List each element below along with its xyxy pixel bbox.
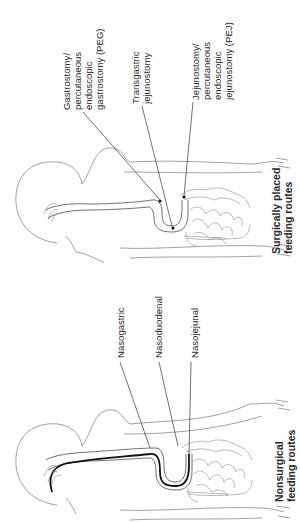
surgical-leader-lines	[83, 102, 193, 226]
caption-surgical: Surgically placed feeding routes	[270, 168, 294, 254]
label-nasojejunal: Nasojejunal	[189, 308, 200, 358]
svg-text:jejunostomy: jejunostomy	[141, 53, 152, 105]
svg-text:Gastrostomy/: Gastrostomy/	[61, 53, 72, 110]
nonsurgical-intestines	[182, 440, 252, 502]
caption-nonsurgical: Nonsurgical feeding routes	[273, 429, 297, 502]
label-peg: Gastrostomy/ percutaneous endoscopic gas…	[61, 28, 105, 110]
svg-text:gastrostomy (PEG): gastrostomy (PEG)	[94, 28, 105, 110]
surgical-intestines	[180, 188, 250, 246]
label-pej: Jejunostomy/ percutaneous endoscopic jej…	[190, 22, 234, 101]
svg-text:endoscopic: endoscopic	[212, 51, 223, 100]
pej-site-dot	[182, 195, 185, 198]
svg-text:Jejunostomy/: Jejunostomy/	[190, 43, 201, 100]
nonsurgical-panel: Nasogastric Nasoduodenal Nasojejunal Non…	[16, 296, 297, 520]
label-nasoduodenal: Nasoduodenal	[153, 296, 164, 358]
svg-text:jejunostomy (PEJ): jejunostomy (PEJ)	[223, 22, 234, 101]
svg-text:percutaneous: percutaneous	[72, 52, 83, 110]
nonsurgical-leader-lines	[120, 362, 191, 454]
label-transgastric: Transgastric jejunostomy	[130, 51, 152, 105]
feeding-routes-diagram: Gastrostomy/ percutaneous endoscopic gas…	[0, 0, 300, 522]
svg-text:Surgically placed: Surgically placed	[270, 168, 282, 254]
svg-text:feeding routes: feeding routes	[282, 181, 294, 254]
svg-text:Nasojejunal: Nasojejunal	[189, 308, 200, 358]
label-nasogastric: Nasogastric	[115, 307, 126, 358]
peg-site-dot	[158, 199, 161, 202]
nonsurgical-esophagus	[44, 448, 192, 492]
svg-text:feeding routes: feeding routes	[285, 429, 297, 502]
svg-text:Nasoduodenal: Nasoduodenal	[153, 296, 164, 358]
svg-text:Transgastric: Transgastric	[130, 51, 141, 104]
surgical-panel: Gastrostomy/ percutaneous endoscopic gas…	[16, 22, 294, 262]
svg-text:Nonsurgical: Nonsurgical	[273, 441, 285, 502]
svg-text:endoscopic: endoscopic	[83, 61, 94, 110]
transgastric-site-dot	[171, 226, 174, 229]
svg-text:percutaneous: percutaneous	[201, 42, 212, 100]
nonsurgical-body-outline	[16, 400, 290, 520]
svg-text:Nasogastric: Nasogastric	[115, 307, 126, 358]
